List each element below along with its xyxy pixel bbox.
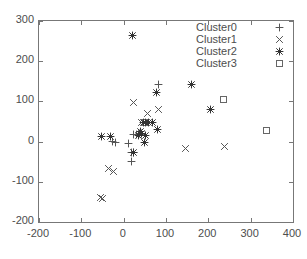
- x-tick-top: [124, 21, 125, 25]
- data-point-cluster2: [191, 84, 192, 85]
- data-point-cluster2: [101, 136, 102, 137]
- y-tick-label: -200: [0, 215, 34, 226]
- legend-label: Cluster2: [196, 45, 237, 57]
- data-point-cluster2: [152, 122, 153, 123]
- x-tick: [39, 218, 40, 222]
- x-tick-label: 0: [103, 228, 143, 239]
- x-tick: [124, 218, 125, 222]
- legend-item-cluster0[interactable]: Cluster0: [196, 21, 288, 33]
- x-tick-label: 300: [230, 228, 270, 239]
- legend-label: Cluster3: [196, 57, 237, 69]
- legend: Cluster0Cluster1Cluster2Cluster3: [196, 21, 288, 69]
- data-point-cluster2: [210, 109, 211, 110]
- y-tick: [39, 101, 43, 102]
- data-point-cluster2: [157, 129, 158, 130]
- y-tick-label: 0: [0, 135, 34, 146]
- data-point-cluster2: [144, 142, 145, 143]
- x-tick: [81, 218, 82, 222]
- data-point-cluster1: [224, 146, 225, 147]
- data-point-cluster2: [133, 152, 134, 153]
- x-tick: [293, 218, 294, 222]
- data-point-cluster2: [145, 135, 146, 136]
- x-tick-label: 400: [272, 228, 307, 239]
- y-tick: [39, 142, 43, 143]
- data-point-cluster1: [185, 148, 186, 149]
- y-tick-right: [289, 182, 293, 183]
- x-tick-label: -100: [60, 228, 100, 239]
- y-tick-right: [289, 101, 293, 102]
- data-point-cluster1: [147, 113, 148, 114]
- x-tick: [166, 218, 167, 222]
- y-tick-label: -100: [0, 175, 34, 186]
- x-tick-top: [166, 21, 167, 25]
- x-tick-top: [81, 21, 82, 25]
- x-tick-label: 200: [187, 228, 227, 239]
- x-tick-label: 100: [145, 228, 185, 239]
- y-tick-label: 300: [0, 14, 34, 25]
- x-tick: [251, 218, 252, 222]
- data-point-cluster0: [115, 142, 116, 143]
- y-tick-right: [289, 222, 293, 223]
- x-tick: [208, 218, 209, 222]
- legend-label: Cluster0: [196, 21, 237, 33]
- data-point-cluster2: [138, 135, 139, 136]
- data-point-cluster1: [133, 102, 134, 103]
- data-point-cluster1: [158, 109, 159, 110]
- data-point-cluster1: [113, 171, 114, 172]
- y-tick-right: [289, 61, 293, 62]
- data-point-cluster3: [223, 99, 224, 100]
- y-tick: [39, 222, 43, 223]
- legend-marker-plus-icon: [270, 21, 288, 33]
- y-tick-right: [289, 142, 293, 143]
- legend-item-cluster3[interactable]: Cluster3: [196, 57, 288, 69]
- legend-marker-square-icon: [270, 57, 288, 69]
- scatter-plot-figure: -200-1000100200300 -200-1000100200300400…: [0, 0, 307, 259]
- data-point-cluster2: [156, 92, 157, 93]
- x-tick-top: [39, 21, 40, 25]
- x-tick-top: [293, 21, 294, 25]
- data-point-cluster0: [131, 161, 132, 162]
- x-tick-label: -200: [18, 228, 58, 239]
- legend-item-cluster2[interactable]: Cluster2: [196, 45, 288, 57]
- legend-item-cluster1[interactable]: Cluster1: [196, 33, 288, 45]
- y-tick: [39, 61, 43, 62]
- data-point-cluster0: [128, 143, 129, 144]
- legend-marker-asterisk-icon: [270, 45, 288, 57]
- y-tick-label: 100: [0, 94, 34, 105]
- legend-marker-cross-icon: [270, 33, 288, 45]
- data-point-cluster3: [266, 130, 267, 131]
- data-point-cluster0: [158, 84, 159, 85]
- data-point-cluster2: [132, 35, 133, 36]
- y-tick-label: 200: [0, 54, 34, 65]
- y-tick: [39, 182, 43, 183]
- data-point-cluster1: [102, 198, 103, 199]
- legend-label: Cluster1: [196, 33, 237, 45]
- data-point-cluster2: [110, 136, 111, 137]
